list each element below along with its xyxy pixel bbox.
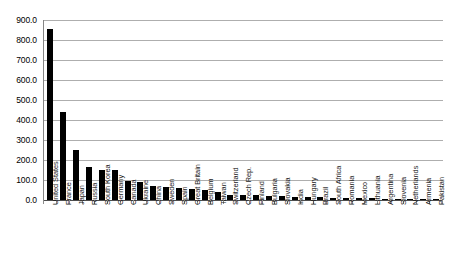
- x-axis-label: Russia: [91, 183, 98, 205]
- bar-slot: [70, 20, 83, 200]
- x-axis-label: Brazil: [323, 187, 330, 205]
- bar-slot: [288, 20, 301, 200]
- x-axis-label: Romania: [348, 176, 355, 205]
- x-axis-label: Ukraine: [143, 180, 150, 205]
- y-tick-label: 800.0: [16, 36, 37, 45]
- x-axis-label: Bulgaria: [271, 178, 278, 205]
- x-axis-label: Netherlands: [413, 166, 420, 205]
- x-axis-label: South Africa: [336, 166, 343, 205]
- y-tick-label: 500.0: [16, 96, 37, 105]
- x-label-slot: Lithuania: [364, 205, 377, 271]
- x-axis-label: Slovenia: [400, 177, 407, 205]
- y-tick-label: 700.0: [16, 56, 37, 65]
- y-axis: 900.0800.0700.0600.0500.0400.0300.0200.0…: [0, 12, 40, 202]
- bar-slot: [121, 20, 134, 200]
- y-tick-label: 0.0: [25, 196, 37, 205]
- x-axis-label: Hungary: [310, 177, 317, 205]
- x-label-slot: Hungary: [300, 205, 313, 271]
- x-label-slot: Bulgaria: [262, 205, 275, 271]
- x-axis-label: Pakistan: [438, 177, 445, 205]
- x-label-slot: Mexico: [352, 205, 365, 271]
- bar-slot: [263, 20, 276, 200]
- bar-chart: 900.0800.0700.0600.0500.0400.0300.0200.0…: [0, 0, 456, 271]
- bar-slot: [275, 20, 288, 200]
- x-axis-label: Taiwan: [220, 182, 227, 205]
- bar-slot: [147, 20, 160, 200]
- bar-slot: [430, 20, 443, 200]
- x-axis-label: France: [65, 182, 72, 205]
- y-tick-label: 600.0: [16, 76, 37, 85]
- bar-slot: [314, 20, 327, 200]
- x-label-slot: Slovenia: [390, 205, 403, 271]
- x-axis-label: South Korea: [104, 164, 111, 205]
- bar-slot: [365, 20, 378, 200]
- x-label-slot: South Korea: [94, 205, 107, 271]
- bar-slot: [160, 20, 173, 200]
- x-axis-label: Mexico: [361, 182, 368, 205]
- x-label-slot: Russia: [82, 205, 95, 271]
- bar-slot: [211, 20, 224, 200]
- x-axis-label: Czech Rep.: [246, 167, 253, 205]
- bar-slot: [353, 20, 366, 200]
- x-label-slot: Canada: [120, 205, 133, 271]
- bar-slot: [134, 20, 147, 200]
- x-label-slot: Japan: [69, 205, 82, 271]
- x-axis-label: Sweden: [168, 179, 175, 205]
- x-axis-category-labels: United StatesFranceJapanRussiaSouth Kore…: [43, 205, 442, 271]
- x-label-slot: Switzerland: [223, 205, 236, 271]
- x-axis-label: Great Britain: [194, 164, 201, 205]
- bar-slot: [83, 20, 96, 200]
- x-axis-label: Spain: [181, 186, 188, 205]
- x-label-slot: Spain: [172, 205, 185, 271]
- x-label-slot: United States: [43, 205, 56, 271]
- x-label-slot: India: [287, 205, 300, 271]
- bar-slot: [301, 20, 314, 200]
- x-label-slot: Great Britain: [184, 205, 197, 271]
- x-axis-label: Finland: [258, 181, 265, 205]
- x-axis-label: Belgium: [207, 179, 214, 205]
- x-label-slot: China: [146, 205, 159, 271]
- x-axis-label: United States: [53, 161, 60, 205]
- x-label-slot: Ukraine: [133, 205, 146, 271]
- y-tick-label: 900.0: [16, 16, 37, 25]
- x-label-slot: Romania: [339, 205, 352, 271]
- x-label-slot: Belgium: [197, 205, 210, 271]
- x-axis-label: Germany: [117, 175, 124, 205]
- x-axis-label: China: [155, 186, 162, 205]
- x-label-slot: France: [56, 205, 69, 271]
- x-label-slot: Taiwan: [210, 205, 223, 271]
- x-axis-label: India: [297, 189, 304, 205]
- x-label-slot: Brazil: [313, 205, 326, 271]
- x-label-slot: Germany: [107, 205, 120, 271]
- x-axis-label: Switzerland: [233, 167, 240, 205]
- x-axis-label: Slovakia: [284, 177, 291, 205]
- x-label-slot: Armenia: [416, 205, 429, 271]
- y-tick-label: 400.0: [16, 116, 37, 125]
- bar-slot: [173, 20, 186, 200]
- x-axis-label: Canada: [130, 179, 137, 205]
- x-label-slot: Netherlands: [403, 205, 416, 271]
- y-tick-label: 300.0: [16, 136, 37, 145]
- x-label-slot: Finland: [249, 205, 262, 271]
- x-label-slot: South Africa: [326, 205, 339, 271]
- x-axis-label: Lithuania: [374, 175, 381, 205]
- x-axis-label: Japan: [78, 185, 85, 205]
- y-tick-label: 200.0: [16, 156, 37, 165]
- x-label-slot: Pakistan: [429, 205, 442, 271]
- x-label-slot: Czech Rep.: [236, 205, 249, 271]
- x-label-slot: Argentina: [377, 205, 390, 271]
- x-axis-label: Armenia: [426, 178, 433, 205]
- x-label-slot: Slovakia: [274, 205, 287, 271]
- y-tick-label: 100.0: [16, 176, 37, 185]
- x-axis-label: Argentina: [387, 174, 394, 205]
- x-label-slot: Sweden: [159, 205, 172, 271]
